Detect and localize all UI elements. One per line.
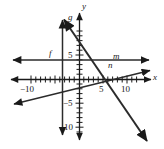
line-label-m: m (113, 52, 120, 61)
x-axis-label: x (153, 73, 157, 82)
y-tick-label-5: 5 (68, 51, 73, 60)
line-label-f: f (49, 49, 52, 58)
y-tick-label-neg5: −5 (63, 99, 73, 108)
coordinate-graph-figure: f g m n x y −10 5 10 5 −5 −10 (0, 0, 164, 149)
x-tick-label-5: 5 (99, 85, 104, 94)
y-tick-label-neg10: −10 (59, 123, 73, 132)
y-axis-label: y (82, 2, 86, 11)
line-label-n: n (108, 61, 113, 70)
x-axis (11, 76, 151, 84)
x-tick-label-10: 10 (121, 85, 130, 94)
x-tick-label-neg10: −10 (20, 85, 34, 94)
graph-canvas (0, 0, 164, 149)
line-label-g: g (68, 13, 73, 22)
line-g (64, 20, 147, 142)
y-axis (76, 13, 84, 140)
